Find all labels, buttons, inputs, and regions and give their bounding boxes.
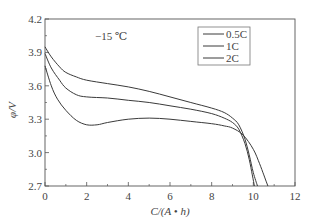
y-tick-label: 3.6	[28, 80, 42, 92]
series-line-0.5c	[45, 47, 258, 186]
x-tick-label: 8	[209, 190, 215, 202]
legend-label: 0.5C	[226, 28, 247, 40]
plot-frame	[45, 19, 295, 186]
series-line-2c	[45, 66, 268, 186]
legend-label: 2C	[226, 52, 239, 64]
axis-ticks: 0246810122.73.03.33.63.94.2	[28, 13, 300, 202]
legend-item-1c: 1C	[203, 40, 239, 52]
x-tick-label: 10	[248, 190, 260, 202]
y-tick-label: 2.7	[28, 180, 42, 192]
x-tick-label: 6	[167, 190, 173, 202]
x-tick-label: 0	[42, 190, 48, 202]
x-axis-label: C/(A • h)	[150, 205, 189, 218]
y-tick-label: 3.3	[28, 113, 42, 125]
series-line-1c	[45, 54, 254, 187]
discharge-chart: 0246810122.73.03.33.63.94.2 −15 ℃ 0.5C 1…	[0, 0, 310, 224]
legend: 0.5C 1C 2C	[198, 27, 250, 65]
y-tick-label: 3.9	[28, 46, 42, 58]
y-axis-label: φ/V	[6, 101, 18, 118]
plot-border	[45, 19, 295, 186]
y-tick-label: 4.2	[28, 13, 42, 25]
x-tick-label: 2	[84, 190, 90, 202]
legend-item-2c: 2C	[203, 52, 239, 64]
y-tick-label: 3.0	[28, 147, 42, 159]
legend-item-0.5c: 0.5C	[203, 28, 247, 40]
x-tick-label: 4	[126, 190, 132, 202]
series-lines	[45, 47, 268, 186]
x-tick-label: 12	[290, 190, 301, 202]
legend-label: 1C	[226, 40, 239, 52]
temperature-annotation: −15 ℃	[95, 30, 127, 42]
